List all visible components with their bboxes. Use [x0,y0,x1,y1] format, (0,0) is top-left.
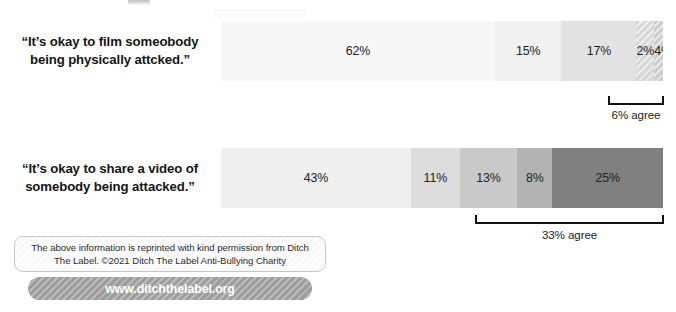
top-crop-artifact-secondary [214,9,306,18]
bracket-agree-share-statement [475,215,664,224]
stacked-bar-film-statement: 62%15%17%2%4% [221,21,663,81]
bracket-agree-film-statement [608,96,664,105]
bar-segment-value: 8% [526,171,544,185]
bar-segment-value: 17% [587,44,612,58]
bar-segment-value: 13% [476,171,501,185]
website-url-text: www.ditchthelabel.org [105,282,235,296]
row-label-line-1: “It’s okay to share a video of [6,160,214,178]
bar-segment: 15% [495,21,561,81]
bracket-label-agree-share-statement: 33% agree [470,228,669,241]
bar-segment-value: 15% [516,44,541,58]
bar-segment: 11% [411,148,460,208]
stacked-bar-share-statement: 43%11%13%8%25% [221,148,663,208]
credit-attribution-box: The above information is reprinted with … [14,236,326,272]
credit-line-1: The above information is reprinted with … [31,241,309,255]
top-crop-artifact [128,0,150,5]
bracket-label-agree-film-statement: 6% agree [578,108,676,121]
bar-segment-value: 25% [595,171,620,185]
bar-segment-value: 43% [304,171,329,185]
bar-segment: 13% [460,148,517,208]
bar-segment: 2% [636,21,654,81]
bar-segment: 43% [221,148,411,208]
bar-segment: 8% [517,148,552,208]
row-label-line-1: “It’s okay to film someobody [6,33,214,51]
website-url-pill[interactable]: www.ditchthelabel.org [28,277,312,300]
bar-segment: 17% [561,21,636,81]
bar-segment-value: 2% [636,44,654,58]
bar-segment-value: 4% [654,44,663,58]
bar-segment: 62% [221,21,495,81]
bar-segment-value: 62% [346,44,371,58]
credit-line-2: The Label. ©2021 Ditch The Label Anti-Bu… [54,254,286,268]
bar-segment: 4% [654,21,663,81]
bar-segment: 25% [552,148,663,208]
row-label-film-statement: “It’s okay to film someobody being physi… [6,33,214,68]
row-label-line-2: somebody being attacked.” [6,178,214,196]
row-label-line-2: being physically attcked.” [6,51,214,69]
bar-segment-value: 11% [424,171,448,185]
row-label-share-statement: “It’s okay to share a video of somebody … [6,160,214,195]
